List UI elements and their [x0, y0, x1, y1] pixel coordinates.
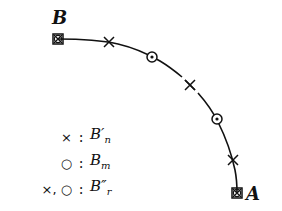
legend-label: Bm	[90, 150, 111, 176]
point-label-a: A	[246, 183, 260, 204]
legend-label: B′n	[90, 124, 111, 150]
cross-circle-legend-icon: ×, ○	[30, 179, 72, 200]
circle-legend-icon: ○	[30, 153, 72, 174]
cross-marker-icon	[185, 80, 195, 90]
circle-marker-icon	[212, 114, 222, 124]
arc-curve	[58, 39, 182, 77]
point-label-b: B	[52, 7, 67, 28]
legend-row-bn: × : B′n	[30, 124, 111, 150]
legend: × : B′n ○ : Bm ×, ○ : B″r	[30, 124, 111, 202]
endpoint-a-marker	[232, 188, 242, 198]
legend-row-bm: ○ : Bm	[30, 150, 111, 176]
cross-legend-icon: ×	[30, 127, 72, 148]
legend-colon: :	[72, 179, 90, 200]
legend-row-br: ×, ○ : B″r	[30, 176, 111, 202]
legend-colon: :	[72, 127, 90, 148]
legend-colon: :	[72, 153, 90, 174]
endpoint-b-marker	[53, 34, 63, 44]
arc-curve-segment	[198, 93, 237, 193]
circle-marker-icon	[147, 52, 157, 62]
legend-label: B″r	[90, 176, 111, 202]
